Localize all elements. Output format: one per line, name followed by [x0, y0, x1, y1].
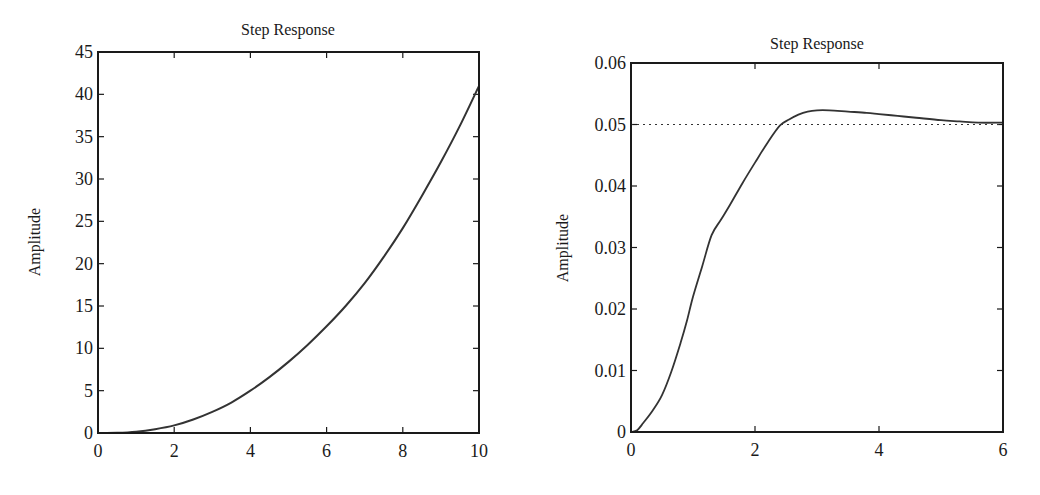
y-tick-label: 45: [75, 42, 93, 62]
y-axis-ticks: 00.010.020.030.040.050.06: [595, 53, 1004, 442]
y-tick-label: 0.06: [595, 53, 627, 73]
y-tick-label: 0.05: [595, 115, 627, 135]
figure: Step Response Amplitude 0510152025303540…: [0, 0, 1040, 495]
y-tick-label: 30: [75, 169, 93, 189]
y-tick-label: 0: [84, 423, 93, 443]
plot-area-frame: [98, 52, 479, 433]
response-curve: [98, 86, 479, 433]
y-tick-label: 40: [75, 84, 93, 104]
y-tick-label: 35: [75, 127, 93, 147]
x-tick-label: 8: [398, 441, 407, 461]
y-tick-label: 5: [84, 381, 93, 401]
chart-title: Step Response: [241, 21, 335, 39]
x-tick-label: 0: [94, 441, 103, 461]
y-tick-label: 25: [75, 211, 93, 231]
x-axis-ticks: 0246810: [94, 52, 489, 461]
y-tick-label: 0.02: [595, 299, 627, 319]
y-axis-ticks: 051015202530354045: [75, 42, 479, 443]
x-tick-label: 4: [875, 440, 884, 460]
y-tick-label: 0.03: [595, 238, 627, 258]
y-tick-label: 15: [75, 296, 93, 316]
x-tick-label: 6: [999, 440, 1008, 460]
step-response-chart-left: Step Response Amplitude 0510152025303540…: [26, 21, 488, 461]
x-tick-label: 0: [627, 440, 636, 460]
y-axis-label: Amplitude: [26, 208, 44, 276]
y-tick-label: 0: [617, 422, 626, 442]
step-response-chart-right: Step Response Amplitude 00.010.020.030.0…: [554, 35, 1008, 460]
response-curve: [631, 110, 1003, 432]
x-tick-label: 6: [322, 441, 331, 461]
x-tick-label: 2: [751, 440, 760, 460]
x-tick-label: 4: [246, 441, 255, 461]
y-tick-label: 0.04: [595, 176, 627, 196]
plot-area-frame: [631, 63, 1003, 432]
x-tick-label: 10: [470, 441, 488, 461]
y-axis-label: Amplitude: [554, 214, 572, 282]
x-axis-ticks: 0246: [627, 63, 1008, 460]
y-tick-label: 20: [75, 254, 93, 274]
y-tick-label: 0.01: [595, 361, 627, 381]
y-tick-label: 10: [75, 338, 93, 358]
chart-title: Step Response: [770, 35, 864, 53]
x-tick-label: 2: [170, 441, 179, 461]
